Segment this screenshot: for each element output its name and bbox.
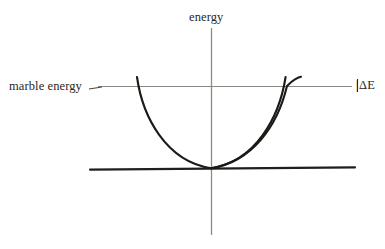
energy-gap-delta-e-label: |ΔE [356, 79, 375, 92]
marble-energy-label: marble energy [9, 80, 82, 93]
baseline-surface-line [90, 167, 355, 169]
y-axis-title-energy: energy [189, 11, 223, 24]
potential-well-parabola-right-arm [211, 77, 301, 168]
marble-energy-leader-dash [89, 87, 102, 89]
energy-diagram-figure: energy marble energy |ΔE [0, 0, 385, 249]
diagram-canvas [0, 0, 385, 249]
